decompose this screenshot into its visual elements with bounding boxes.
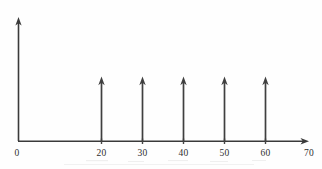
stem-plot-figure: 0 20 30 40 50 60 70: [0, 0, 322, 169]
scan-artifacts: [64, 160, 266, 165]
x-tick-label-40: 40: [178, 148, 188, 158]
x-tick-label-50: 50: [219, 148, 229, 158]
x-tick-label-60: 60: [260, 148, 270, 158]
stem-at-20: [98, 77, 104, 142]
x-tick-label-70: 70: [304, 148, 314, 158]
x-tick-label-30: 30: [137, 148, 147, 158]
y-axis: [15, 17, 21, 141]
stem-plot-canvas: 0 20 30 40 50 60 70: [0, 0, 322, 169]
stem-at-60: [262, 77, 268, 142]
stem-at-50: [221, 77, 227, 142]
stem-at-40: [180, 77, 186, 142]
stem-at-30: [139, 77, 145, 142]
x-tick-label-20: 20: [96, 148, 106, 158]
stem-impulses: [98, 77, 268, 142]
x-tick-label-0: 0: [14, 148, 19, 158]
x-axis-tick-labels: 0 20 30 40 50 60 70: [14, 148, 314, 158]
